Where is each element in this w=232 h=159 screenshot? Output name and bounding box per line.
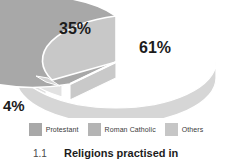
- legend-label-roman-catholic: Roman Catholic: [105, 126, 156, 133]
- slice-value-others: 4%: [3, 98, 25, 113]
- legend-label-protestant: Protestant: [46, 126, 79, 133]
- legend-swatch-others: [165, 123, 178, 136]
- caption-number: 1.1: [33, 148, 47, 159]
- pie-chart-svg: [0, 0, 232, 118]
- pie-chart-plot: 61% 35% 4%: [0, 0, 232, 118]
- legend-swatch-protestant: [29, 123, 42, 136]
- chart-legend: Protestant Roman Catholic Others: [0, 119, 232, 140]
- slice-value-protestant: 61%: [139, 40, 171, 56]
- legend-item-others[interactable]: Others: [165, 123, 204, 136]
- figure-caption: 1.1 Religions practised in: [0, 143, 232, 159]
- legend-item-roman-catholic[interactable]: Roman Catholic: [88, 123, 156, 136]
- legend-item-protestant[interactable]: Protestant: [29, 123, 79, 136]
- slice-value-roman-catholic: 35%: [59, 21, 91, 37]
- caption-text: Religions practised in: [64, 147, 178, 159]
- pie-chart-figure: 61% 35% 4% Protestant Roman Catholic Oth…: [0, 0, 232, 159]
- legend-label-others: Others: [182, 126, 204, 133]
- legend-swatch-roman-catholic: [88, 123, 101, 136]
